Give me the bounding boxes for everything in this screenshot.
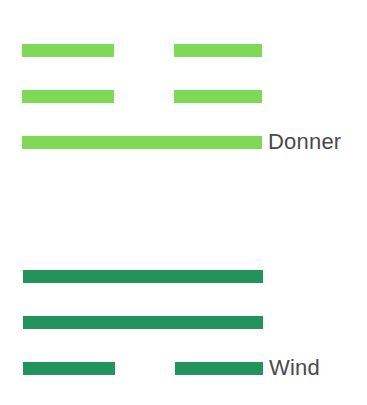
line-segment-left: [22, 90, 114, 103]
line-segment-full: [23, 316, 263, 329]
line-segment-right: [174, 90, 262, 103]
line-segment-full: [23, 270, 263, 283]
trigram-label: Wind: [269, 357, 320, 379]
trigram-label: Donner: [268, 131, 341, 153]
line-segment-left: [22, 44, 114, 57]
line-segment-right: [175, 362, 263, 375]
line-segment-left: [23, 362, 115, 375]
line-segment-full: [22, 136, 262, 149]
line-segment-right: [174, 44, 262, 57]
